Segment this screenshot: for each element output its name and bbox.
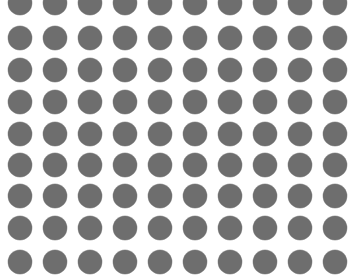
circle-dot (78, 184, 102, 208)
circle-dot (183, 26, 207, 50)
circle-dot (8, 0, 32, 15)
circle-dot (8, 184, 32, 208)
circle-dot (183, 250, 207, 274)
circle-dot (218, 153, 242, 177)
circle-dot (253, 153, 277, 177)
circle-dot (43, 26, 67, 50)
circle-dot (8, 90, 32, 114)
circle-dot (288, 26, 312, 50)
circle-dot (43, 0, 67, 15)
circle-dot (113, 0, 137, 15)
circle-dot (288, 0, 312, 15)
circle-dot (288, 153, 312, 177)
circle-dot (183, 58, 207, 82)
circle-dot (78, 58, 102, 82)
circle-dot (78, 122, 102, 146)
circle-dot (218, 250, 242, 274)
circle-dot (78, 26, 102, 50)
circle-dot (113, 122, 137, 146)
circle-dot (218, 26, 242, 50)
circle-dot (113, 153, 137, 177)
circle-dot (148, 90, 172, 114)
circle-dot (253, 90, 277, 114)
circle-dot (43, 250, 67, 274)
circle-dot (323, 122, 347, 146)
circle-dot (43, 58, 67, 82)
circle-dot (113, 250, 137, 274)
circle-dot (78, 90, 102, 114)
circle-dot (253, 250, 277, 274)
circle-dot (253, 122, 277, 146)
circle-dot (148, 26, 172, 50)
circle-dot (148, 0, 172, 15)
circle-dot (218, 90, 242, 114)
circle-dot (148, 153, 172, 177)
circle-dot (113, 184, 137, 208)
circle-dot (8, 153, 32, 177)
circle-dot (8, 216, 32, 240)
circle-dot (253, 0, 277, 15)
circle-dot (253, 184, 277, 208)
circle-dot (218, 0, 242, 15)
circle-dot (43, 90, 67, 114)
circle-dot (323, 90, 347, 114)
circle-dot (288, 216, 312, 240)
circle-dot (148, 58, 172, 82)
circle-dot (78, 250, 102, 274)
circle-dot (43, 153, 67, 177)
circle-dot (323, 26, 347, 50)
circle-dot (288, 58, 312, 82)
circle-dot (113, 26, 137, 50)
circle-dot (253, 58, 277, 82)
circle-dot (253, 26, 277, 50)
circle-dot (8, 26, 32, 50)
circle-dot (113, 90, 137, 114)
circle-dot (148, 250, 172, 274)
circle-dot (183, 216, 207, 240)
circle-dot (253, 216, 277, 240)
circle-dot (113, 58, 137, 82)
circle-dot (78, 0, 102, 15)
circle-dot (148, 216, 172, 240)
circle-dot (43, 216, 67, 240)
circle-dot (323, 0, 347, 15)
circle-dot (323, 184, 347, 208)
circle-dot (78, 153, 102, 177)
circle-dot (323, 250, 347, 274)
circle-dot (8, 122, 32, 146)
circle-dot (183, 122, 207, 146)
circle-dot (148, 122, 172, 146)
circle-dot (218, 184, 242, 208)
circle-dot (218, 58, 242, 82)
circle-dot (218, 216, 242, 240)
circle-dot (323, 216, 347, 240)
dot-grid-pattern (0, 0, 358, 279)
circle-dot (183, 90, 207, 114)
circle-dot (323, 58, 347, 82)
circle-dot (218, 122, 242, 146)
circle-dot (183, 0, 207, 15)
circle-dot (8, 58, 32, 82)
circle-dot (288, 90, 312, 114)
circle-dot (113, 216, 137, 240)
circle-dot (183, 184, 207, 208)
circle-dot (8, 250, 32, 274)
circle-dot (288, 250, 312, 274)
circle-dot (288, 184, 312, 208)
circle-dot (43, 184, 67, 208)
circle-dot (183, 153, 207, 177)
circle-dot (288, 122, 312, 146)
circle-dot (323, 153, 347, 177)
circle-dot (43, 122, 67, 146)
circle-dot (78, 216, 102, 240)
circle-dot (148, 184, 172, 208)
